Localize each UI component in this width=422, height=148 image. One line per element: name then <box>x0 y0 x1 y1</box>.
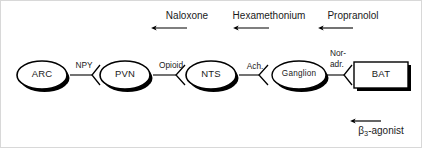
node-label-arc: ARC <box>32 69 53 79</box>
synapse-fork-ganglion-bat <box>344 65 352 85</box>
agonist-label-suffix: -agonist <box>368 125 404 136</box>
transmitter-label-npy: NPY <box>75 61 92 70</box>
blocker-label-naloxone: Naloxone <box>166 11 208 22</box>
node-label-nts: NTS <box>201 69 221 79</box>
node-label-bat: BAT <box>372 69 390 79</box>
blocker-label-propranolol: Propranolol <box>327 11 378 22</box>
transmitter-label-ach: Ach. <box>247 62 264 71</box>
diagram-canvas: ARC PVN NTS Ganglion BAT NPY Opioid Ach.… <box>0 0 422 148</box>
agonist-label-beta3: β3-agonist <box>358 126 403 138</box>
node-label-pvn: PVN <box>115 69 135 79</box>
synapse-fork-arc-pvn <box>92 65 100 85</box>
node-label-ganglion: Ganglion <box>282 70 316 79</box>
transmitter-label-noradr-line1: Nor- <box>330 49 346 58</box>
blocker-label-hexamethonium: Hexamethonium <box>233 11 306 22</box>
transmitter-label-opioid: Opioid <box>159 61 183 70</box>
transmitter-label-noradr-line2: adr. <box>330 60 344 69</box>
